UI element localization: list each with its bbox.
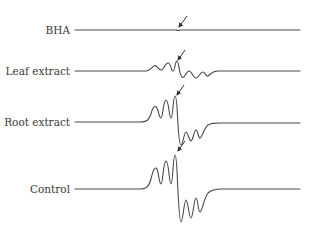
arrow-marker-icon	[178, 141, 185, 151]
arrow-marker-icon	[178, 50, 185, 60]
trace-root-extract	[75, 85, 300, 145]
arrow-marker-icon	[177, 85, 184, 95]
spectra-plot	[0, 0, 316, 234]
trace-bha	[75, 16, 300, 31]
trace-leaf-extract	[75, 50, 300, 78]
trace-control	[75, 141, 300, 222]
arrow-marker-icon	[179, 16, 187, 27]
esr-spectra-figure: BHA Leaf extract Root extract Control	[0, 0, 316, 234]
